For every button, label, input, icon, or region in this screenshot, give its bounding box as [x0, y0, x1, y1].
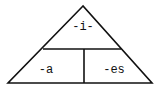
bottom-right-section-label: -es: [103, 63, 125, 77]
triangle-diagram: -i- -a -es: [0, 0, 160, 90]
top-section-label: -i-: [72, 20, 94, 34]
triangle-outline: [8, 6, 152, 83]
bottom-left-section-label: -a: [39, 63, 53, 77]
